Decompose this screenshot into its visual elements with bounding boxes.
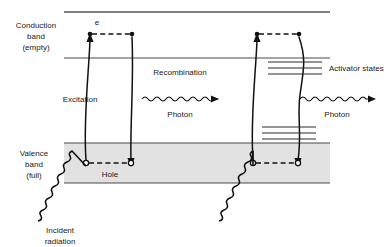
hole-circle-right-b: [295, 160, 300, 165]
electron-dot-left-a: [88, 32, 93, 37]
photon-arrow-left: [142, 96, 219, 103]
luminescence-band-diagram: Conduction band (empty) Valence band (fu…: [0, 0, 384, 247]
photon-label-left: Photon: [167, 110, 192, 119]
recombination-path-left: [131, 37, 133, 160]
incident-radiation-label-line2: radiation: [45, 237, 76, 246]
hole-circle-left-b: [128, 160, 133, 165]
recombination-label: Recombination: [153, 68, 206, 77]
electron-dot-right-a: [255, 32, 260, 37]
electron-dot-left-b: [130, 32, 135, 37]
conduction-band-label-line1: Conduction: [16, 21, 56, 30]
conduction-band-label-line2: band: [27, 32, 45, 41]
photon-arrow-right: [300, 96, 376, 103]
diagram-canvas: Conduction band (empty) Valence band (fu…: [0, 0, 384, 247]
activator-states-label: Activator states: [329, 64, 384, 73]
valence-band-label-line1: Valence: [20, 149, 49, 158]
valence-band-label-line3: (full): [26, 171, 42, 180]
incident-radiation-label-line1: Incident: [46, 226, 75, 235]
excitation-label: Excitation: [63, 95, 98, 104]
electron-label: e: [95, 18, 100, 27]
valence-band-label-line2: band: [25, 160, 43, 169]
photon-label-right: Photon: [324, 110, 349, 119]
hole-label: Hole: [102, 170, 119, 179]
conduction-band-label-line3: (empty): [22, 43, 49, 52]
electron-dot-right-b: [297, 32, 302, 37]
